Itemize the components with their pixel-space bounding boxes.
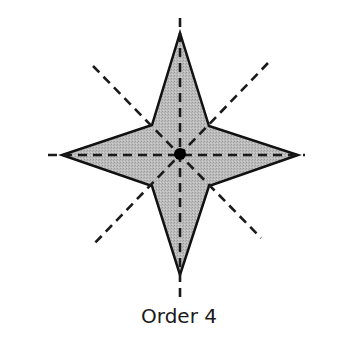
order-caption: Order 4 [0, 304, 354, 328]
center-of-rotation-dot [174, 148, 186, 160]
rotational-symmetry-diagram [0, 0, 354, 350]
